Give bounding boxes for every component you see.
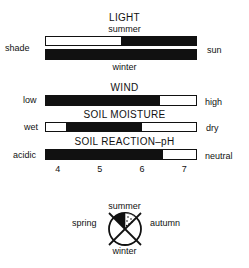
season-right-label: autumn bbox=[150, 218, 180, 228]
light-summer-bar bbox=[45, 36, 197, 46]
light-winter-fill bbox=[46, 50, 196, 59]
soil-moisture-left-label: wet bbox=[24, 122, 38, 132]
light-title: LIGHT bbox=[0, 12, 249, 23]
soil-ph-right-label: neutral bbox=[205, 151, 233, 161]
soil-moisture-right-label: dry bbox=[206, 123, 219, 133]
soil-ph-bar bbox=[45, 149, 197, 160]
light-winter-label: winter bbox=[0, 62, 249, 72]
ph-tick-label: 4 bbox=[52, 164, 64, 174]
light-left-label: shade bbox=[5, 43, 30, 53]
wind-fill bbox=[46, 96, 160, 105]
ph-tick-label: 6 bbox=[136, 164, 148, 174]
wind-bar bbox=[45, 95, 197, 106]
light-summer-label: summer bbox=[0, 24, 249, 34]
season-wheel bbox=[104, 208, 146, 250]
light-right-label: sun bbox=[207, 45, 222, 55]
ph-tick-label: 5 bbox=[94, 164, 106, 174]
soil-moisture-fill bbox=[66, 123, 143, 131]
light-winter-bar bbox=[45, 49, 197, 60]
soil-ph-title: SOIL REACTION–pH bbox=[0, 136, 249, 147]
wind-right-label: high bbox=[205, 97, 222, 107]
soil-ph-fill bbox=[46, 150, 163, 159]
wind-title: WIND bbox=[0, 82, 249, 93]
soil-ph-left-label: acidic bbox=[13, 150, 36, 160]
ph-tick-label: 7 bbox=[178, 164, 190, 174]
wind-left-label: low bbox=[23, 95, 37, 105]
light-summer-fill bbox=[121, 37, 196, 45]
soil-moisture-bar bbox=[45, 122, 197, 132]
season-left-label: spring bbox=[72, 218, 97, 228]
soil-moisture-title: SOIL MOISTURE bbox=[0, 109, 249, 120]
